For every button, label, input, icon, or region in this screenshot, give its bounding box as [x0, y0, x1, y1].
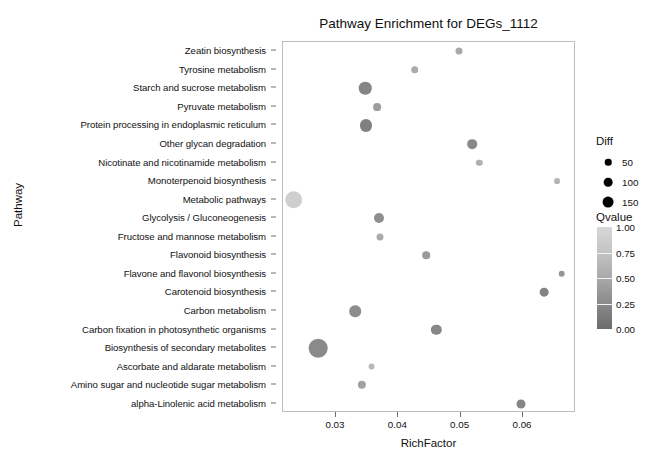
size-legend-label: 100 [622, 177, 638, 188]
y-tick-mark [271, 254, 276, 255]
y-tick-label: Pyruvate metabolism [177, 100, 266, 111]
y-tick-mark [271, 272, 276, 273]
y-tick-label: Amino sugar and nucleotide sugar metabol… [71, 379, 266, 390]
y-tick-label: Other glycan degradation [159, 138, 266, 149]
y-tick-mark [271, 198, 276, 199]
data-point-bubble [558, 271, 565, 278]
colorbar-tick [597, 278, 612, 279]
y-tick-label: Flavonoid biosynthesis [170, 249, 266, 260]
data-point-bubble [423, 252, 431, 260]
y-axis-tick-labels: Zeatin biosynthesisTyrosine metabolismSt… [0, 41, 276, 412]
y-tick-label: Flavone and flavonol biosynthesis [124, 267, 266, 278]
colorbar-label: 1.00 [616, 222, 635, 233]
y-tick-label: Zeatin biosynthesis [185, 45, 266, 56]
y-tick-label: alpha-Linolenic acid metabolism [131, 397, 266, 408]
x-tick-label: 0.04 [388, 419, 407, 430]
y-tick-mark [271, 50, 276, 51]
x-tick-mark [397, 412, 398, 417]
data-point-bubble [540, 288, 549, 297]
y-tick-mark [271, 309, 276, 310]
x-tick-mark [460, 412, 461, 417]
y-tick-mark [271, 105, 276, 106]
y-tick-label: Fructose and mannose metabolism [118, 230, 266, 241]
pathway-enrichment-bubble-chart: Pathway Enrichment for DEGs_1112 Zeatin … [0, 0, 667, 465]
x-tick-label: 0.06 [512, 419, 531, 430]
y-tick-label: Carbon fixation in photosynthetic organi… [82, 323, 266, 334]
x-tick-label: 0.05 [450, 419, 469, 430]
plot-panel [282, 41, 575, 412]
y-tick-label: Biosynthesis of secondary metabolites [105, 342, 266, 353]
data-point-bubble [309, 339, 328, 358]
y-tick-label: Monoterpenoid biosynthesis [148, 175, 266, 186]
y-tick-label: Glycolysis / Gluconeogenesis [142, 212, 266, 223]
data-point-bubble [467, 139, 477, 149]
y-tick-mark [271, 365, 276, 366]
size-legend-title: Diff [596, 135, 613, 147]
colorbar-tick [597, 304, 612, 305]
y-tick-mark [271, 217, 276, 218]
size-legend-dot [603, 197, 614, 208]
size-legend-label: 50 [622, 157, 633, 168]
size-legend-row: 50 [596, 153, 666, 171]
x-axis-title: RichFactor [282, 437, 575, 449]
data-point-bubble [431, 324, 441, 334]
y-tick-mark [271, 161, 276, 162]
data-point-bubble [368, 363, 375, 370]
size-legend-dot [604, 178, 613, 187]
y-tick-mark [271, 68, 276, 69]
colorbar-label: 0.75 [616, 247, 635, 258]
data-point-bubble [554, 178, 560, 184]
y-axis-title: Pathway [12, 183, 24, 227]
y-tick-mark [271, 180, 276, 181]
size-legend-row: 100 [596, 173, 666, 191]
size-legend-row: 150 [596, 193, 666, 211]
y-tick-mark [271, 87, 276, 88]
y-tick-label: Ascorbate and aldarate metabolism [117, 360, 266, 371]
y-tick-mark [271, 402, 276, 403]
data-point-bubble [359, 82, 371, 94]
y-tick-label: Carbon metabolism [184, 304, 266, 315]
data-point-bubble [376, 233, 383, 240]
y-tick-mark [271, 291, 276, 292]
y-tick-label: Carotenoid biosynthesis [165, 286, 266, 297]
data-point-bubble [456, 48, 463, 55]
x-tick-mark [522, 412, 523, 417]
x-tick-mark [335, 412, 336, 417]
legend-area: Diff Qvalue 501001501.000.750.500.250.00 [592, 135, 667, 335]
x-tick-label: 0.03 [325, 419, 344, 430]
data-point-bubble [374, 213, 384, 223]
size-legend-dot [605, 159, 612, 166]
colorbar-label: 0.25 [616, 298, 635, 309]
y-tick-mark [271, 384, 276, 385]
data-point-bubble [411, 66, 419, 74]
y-tick-mark [271, 235, 276, 236]
data-points-layer [283, 42, 574, 411]
y-tick-label: Nicotinate and nicotinamide metabolism [98, 156, 266, 167]
y-tick-label: Tyrosine metabolism [179, 63, 266, 74]
y-tick-mark [271, 143, 276, 144]
colorbar-label: 0.00 [616, 324, 635, 335]
y-tick-mark [271, 124, 276, 125]
colorbar-tick [597, 253, 612, 254]
data-point-bubble [476, 159, 482, 165]
y-tick-label: Starch and sucrose metabolism [133, 82, 266, 93]
data-point-bubble [360, 119, 372, 131]
data-point-bubble [350, 305, 362, 317]
y-tick-label: Protein processing in endoplasmic reticu… [80, 119, 266, 130]
y-tick-label: Metabolic pathways [183, 193, 266, 204]
chart-title: Pathway Enrichment for DEGs_1112 [282, 16, 575, 31]
y-tick-mark [271, 328, 276, 329]
data-point-bubble [373, 103, 381, 111]
data-point-bubble [358, 381, 366, 389]
data-point-bubble [517, 399, 526, 408]
colorbar-label: 0.50 [616, 273, 635, 284]
y-tick-mark [271, 347, 276, 348]
data-point-bubble [285, 191, 303, 209]
size-legend-label: 150 [622, 197, 638, 208]
